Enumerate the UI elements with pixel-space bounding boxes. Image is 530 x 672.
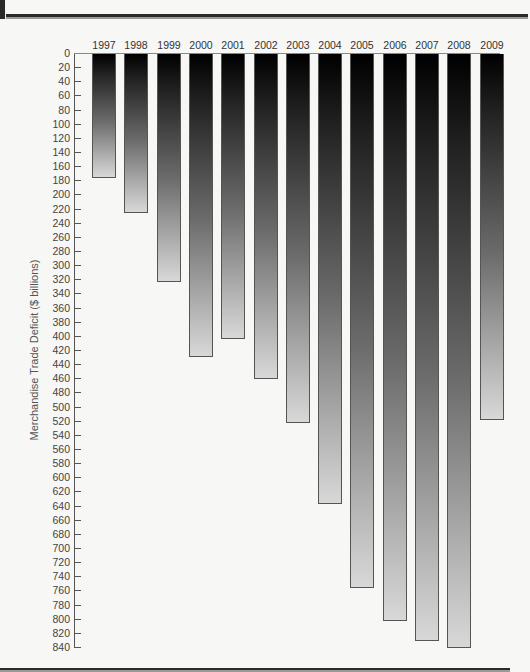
corner-block — [0, 0, 5, 19]
y-tick-label: 360 — [30, 302, 70, 314]
y-tick — [74, 152, 81, 153]
y-tick-label: 140 — [30, 146, 70, 158]
y-tick-label: 720 — [30, 556, 70, 568]
y-tick — [74, 81, 81, 82]
y-tick — [74, 647, 81, 648]
y-tick — [74, 506, 81, 507]
y-tick-label: 300 — [30, 259, 70, 271]
y-tick — [74, 491, 81, 492]
bar-2002 — [254, 54, 278, 379]
y-tick-label: 340 — [30, 287, 70, 299]
y-tick-label: 400 — [30, 330, 70, 342]
y-tick-label: 180 — [30, 174, 70, 186]
y-tick — [74, 209, 81, 210]
y-tick-label: 60 — [30, 89, 70, 101]
y-tick — [74, 223, 81, 224]
y-tick-label: 280 — [30, 245, 70, 257]
bar-2001 — [221, 54, 245, 339]
y-tick — [74, 336, 81, 337]
y-tick-label: 380 — [30, 316, 70, 328]
y-tick — [74, 364, 81, 365]
y-tick — [74, 322, 81, 323]
y-tick-label: 540 — [30, 429, 70, 441]
y-tick — [74, 194, 81, 195]
y-tick — [74, 265, 81, 266]
bar-1998 — [124, 54, 148, 213]
y-tick — [74, 392, 81, 393]
y-tick — [74, 619, 81, 620]
y-tick — [74, 308, 81, 309]
y-tick-label: 80 — [30, 104, 70, 116]
bar-2003 — [286, 54, 310, 423]
y-tick — [74, 279, 81, 280]
y-tick — [74, 421, 81, 422]
y-tick-label: 820 — [30, 627, 70, 639]
y-tick — [74, 407, 81, 408]
y-tick — [74, 67, 81, 68]
y-tick-label: 560 — [30, 443, 70, 455]
bar-2000 — [189, 54, 213, 357]
y-tick — [74, 477, 81, 478]
bar-2006 — [383, 54, 407, 621]
y-tick — [74, 237, 81, 238]
y-tick — [74, 576, 81, 577]
y-tick — [74, 605, 81, 606]
y-tick — [74, 110, 81, 111]
y-tick — [74, 562, 81, 563]
y-tick — [74, 95, 81, 96]
y-tick-label: 260 — [30, 231, 70, 243]
y-tick — [74, 548, 81, 549]
y-tick — [74, 350, 81, 351]
y-tick — [74, 463, 81, 464]
y-tick-label: 40 — [30, 75, 70, 87]
y-tick-label: 600 — [30, 471, 70, 483]
y-tick-label: 800 — [30, 613, 70, 625]
y-tick-label: 480 — [30, 386, 70, 398]
y-tick-label: 160 — [30, 160, 70, 172]
y-tick-label: 20 — [30, 61, 70, 73]
y-tick-label: 0 — [30, 47, 70, 59]
y-tick — [74, 166, 81, 167]
y-tick-label: 200 — [30, 188, 70, 200]
y-tick-label: 100 — [30, 118, 70, 130]
y-tick-label: 680 — [30, 528, 70, 540]
y-tick — [74, 590, 81, 591]
y-tick — [74, 449, 81, 450]
y-tick-label: 520 — [30, 415, 70, 427]
bottom-rule — [0, 668, 510, 672]
y-tick — [74, 251, 81, 252]
y-tick — [74, 124, 81, 125]
bar-2007 — [415, 54, 439, 641]
bar-2009 — [480, 54, 504, 420]
bar-2008 — [447, 54, 471, 648]
x-category-label: 2009 — [472, 39, 512, 51]
y-tick-label: 620 — [30, 485, 70, 497]
y-tick-label: 120 — [30, 132, 70, 144]
y-tick-label: 640 — [30, 500, 70, 512]
y-tick-label: 240 — [30, 217, 70, 229]
y-tick — [74, 520, 81, 521]
y-tick — [74, 180, 81, 181]
y-tick-label: 780 — [30, 599, 70, 611]
y-tick-label: 700 — [30, 542, 70, 554]
y-tick — [74, 293, 81, 294]
y-tick-label: 840 — [30, 641, 70, 653]
bar-2005 — [350, 54, 374, 588]
y-tick — [74, 633, 81, 634]
y-tick-label: 320 — [30, 273, 70, 285]
y-tick — [74, 534, 81, 535]
bar-1999 — [157, 54, 181, 282]
y-tick-label: 460 — [30, 372, 70, 384]
y-tick-label: 220 — [30, 203, 70, 215]
y-tick-label: 660 — [30, 514, 70, 526]
y-tick-label: 440 — [30, 358, 70, 370]
y-tick — [74, 435, 81, 436]
y-tick-label: 580 — [30, 457, 70, 469]
y-tick-label: 420 — [30, 344, 70, 356]
y-tick-label: 760 — [30, 584, 70, 596]
y-tick — [74, 378, 81, 379]
bar-1997 — [92, 54, 116, 178]
top-rule — [6, 14, 528, 19]
y-tick-label: 500 — [30, 401, 70, 413]
y-tick — [74, 138, 81, 139]
